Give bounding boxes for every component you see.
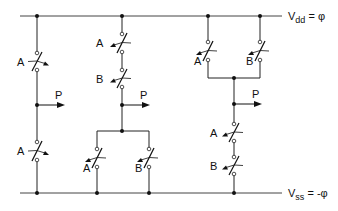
control-arc: [252, 50, 269, 53]
control-arc: [141, 157, 158, 160]
switch-contact-bottom: [232, 172, 236, 176]
nor-pullup-switch-a: A: [194, 40, 217, 67]
switch-contact-bottom: [35, 158, 39, 162]
control-arrow-icon: [222, 133, 228, 137]
nor-vss-node: [232, 191, 236, 195]
switch-contact-top: [147, 147, 151, 151]
output-arrow-icon: [142, 102, 150, 108]
switch-label: B: [96, 73, 103, 85]
switch-label: B: [246, 55, 253, 67]
nand-pullup-switch-a: A: [96, 32, 131, 54]
switch-contact-bottom: [258, 58, 262, 62]
control-arrow-icon: [110, 43, 116, 47]
control-arrow-icon: [43, 62, 49, 66]
output-label: P: [252, 88, 259, 100]
switch-contact-top: [95, 147, 99, 151]
vss-label: Vss = -φ: [288, 187, 328, 202]
nand-output: P: [122, 89, 150, 108]
nor-pulldown-switch-a: A: [210, 122, 243, 143]
switch-contact-top: [35, 140, 39, 144]
inverter-vss-node: [35, 191, 39, 195]
vdd-label: Vdd = φ: [288, 10, 325, 25]
switch-contact-bottom: [95, 165, 99, 169]
switch-contact-top: [120, 32, 124, 36]
nand-split-node: [120, 129, 124, 133]
nor-vdd-node-a: [206, 14, 210, 18]
output-arrow-icon: [254, 101, 262, 107]
nand-pulldown-switch-b: B: [135, 147, 158, 174]
switch-contact-bottom: [147, 165, 151, 169]
switch-label: A: [210, 127, 218, 139]
inverter-output: P: [37, 89, 65, 108]
switch-contact-top: [35, 51, 39, 55]
output-label: P: [55, 89, 62, 101]
switch-label: A: [17, 145, 25, 157]
nor-vdd-node-b: [258, 14, 262, 18]
control-arc: [89, 157, 106, 160]
control-arrow-icon: [110, 79, 116, 83]
control-arrow-icon: [222, 166, 228, 170]
switch-label: A: [96, 37, 104, 49]
switch-contact-bottom: [35, 68, 39, 72]
nor-merge-node: [232, 76, 236, 80]
switch-contact-bottom: [120, 50, 124, 54]
switch-label: B: [210, 160, 217, 172]
output-label: P: [140, 89, 147, 101]
nor-pulldown-switch-b: B: [210, 155, 243, 176]
switch-contact-top: [120, 68, 124, 72]
control-arc: [226, 165, 243, 168]
nand-vss-node-b: [147, 191, 151, 195]
switch-contact-bottom: [120, 85, 124, 89]
control-arrow-icon: [43, 151, 49, 155]
switch-contact-top: [232, 122, 236, 126]
inverter-pullup-switch: A: [17, 51, 49, 72]
switch-label: A: [194, 55, 202, 67]
outputs: PPP: [37, 88, 262, 108]
switch-contact-top: [232, 155, 236, 159]
control-arc: [226, 132, 243, 135]
switch-contact-bottom: [232, 139, 236, 143]
nor-output: P: [234, 88, 262, 107]
switch-label: A: [83, 162, 91, 174]
switch-contact-top: [206, 40, 210, 44]
control-arc: [114, 42, 131, 45]
inverter-vdd-node: [35, 14, 39, 18]
nor-pullup-switch-b: B: [246, 40, 269, 67]
switch-contact-bottom: [206, 58, 210, 62]
switch-label: B: [135, 162, 142, 174]
nand-pullup-switch-b: B: [96, 68, 131, 89]
switch-contact-top: [258, 40, 262, 44]
control-arc: [114, 78, 131, 81]
output-arrow-icon: [57, 102, 65, 108]
nand-vss-node-a: [95, 191, 99, 195]
control-arc: [200, 50, 217, 53]
nand-pulldown-switch-a: A: [83, 147, 106, 174]
switch-label: A: [17, 56, 25, 68]
nand-vdd-node: [120, 14, 124, 18]
logic-circuit-diagram: Vdd = φ Vss = -φ AAABABABAB PPP: [0, 0, 338, 211]
inverter-pulldown-switch: A: [17, 140, 49, 162]
